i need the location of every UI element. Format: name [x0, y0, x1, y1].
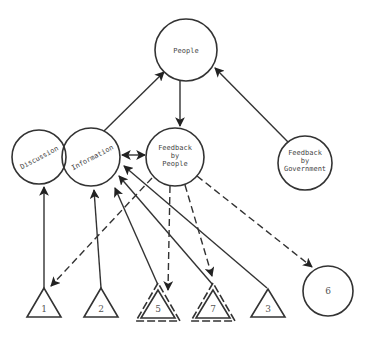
edge-information-to-people — [104, 72, 164, 131]
edge-3-to-information — [124, 166, 267, 288]
feedback-by-people-line2: by — [171, 152, 179, 160]
triangle-5-label: 5 — [155, 304, 161, 314]
edge-feedback-people-to-5 — [168, 186, 170, 290]
triangle-2-label: 2 — [98, 304, 104, 314]
feedback-by-people-line3: People — [162, 160, 187, 168]
edge-5-to-information — [115, 188, 158, 285]
node-feedback-by-government: Feedback by Government — [278, 136, 332, 190]
feedback-by-people-line1: Feedback — [158, 144, 193, 152]
node-triangle-2: 2 — [84, 288, 118, 317]
edge-feedback-government-to-people — [215, 68, 288, 142]
triangle-3-label: 3 — [265, 304, 271, 314]
information-label: Information — [70, 143, 115, 172]
communication-network-diagram: People Discussion Information Feedback b… — [0, 0, 372, 339]
triangle-7-label: 7 — [210, 304, 216, 314]
triangle-1-label: 1 — [41, 304, 47, 314]
node-triangle-1: 1 — [27, 288, 61, 317]
node-people: People — [155, 19, 217, 81]
node-information: Information — [62, 128, 120, 186]
node-6: 6 — [303, 266, 353, 316]
node-discussion: Discussion — [12, 130, 66, 184]
discussion-label: Discussion — [19, 144, 60, 171]
edge-feedback-people-to-7 — [185, 185, 212, 276]
edge-feedback-people-to-1 — [51, 178, 152, 286]
edge-feedback-people-to-6 — [197, 176, 312, 267]
people-label: People — [173, 47, 198, 55]
node-triangle-3: 3 — [251, 289, 285, 317]
node-6-label: 6 — [325, 286, 331, 296]
node-triangle-5: 5 — [136, 283, 180, 321]
feedback-by-government-line1: Feedback — [288, 149, 323, 157]
feedback-by-government-line3: Government — [284, 165, 326, 173]
node-triangle-7: 7 — [191, 283, 235, 321]
node-feedback-by-people: Feedback by People — [146, 128, 204, 186]
feedback-by-government-line2: by — [301, 157, 309, 165]
